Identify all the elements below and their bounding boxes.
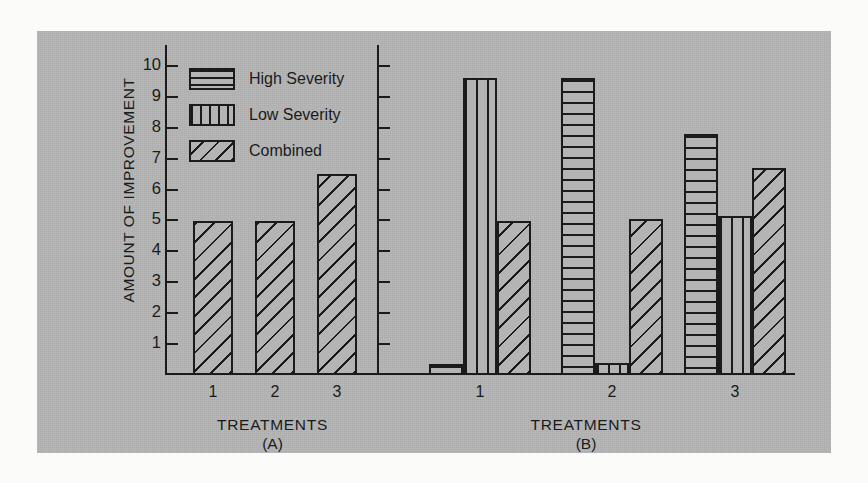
y-tick-9 [379, 96, 390, 98]
y-tick-label-5: 5 [152, 210, 161, 227]
y-tick-6: 6 [167, 189, 178, 191]
y-tick-label-2: 2 [152, 303, 161, 320]
bar-combined-treatment-2 [255, 221, 295, 376]
y-tick-4: 4 [167, 250, 178, 252]
bar-combined-treatment-3 [752, 168, 786, 375]
y-tick-label-8: 8 [152, 118, 161, 135]
y-tick-5 [379, 219, 390, 221]
bar-combined-treatment-3 [317, 174, 357, 375]
y-tick-label-10: 10 [143, 56, 161, 73]
bar-low-severity-treatment-1 [463, 78, 497, 375]
y-tick-1 [379, 343, 390, 345]
panel-b: 123 TREATMENTS (B) [377, 31, 827, 453]
y-axis-b [377, 45, 379, 375]
y-tick-2: 2 [167, 312, 178, 314]
plot-area-a: 12345678910 123 [165, 45, 380, 375]
y-tick-label-7: 7 [152, 149, 161, 166]
panel-letter-a: (A) [165, 435, 380, 453]
bar-combined-treatment-1 [193, 221, 233, 376]
bar-high-severity-treatment-1 [429, 364, 463, 375]
bar-low-severity-treatment-3 [718, 216, 752, 375]
y-tick-7 [379, 158, 390, 160]
y-tick-2 [379, 312, 390, 314]
y-tick-5: 5 [167, 219, 178, 221]
y-tick-10 [379, 65, 390, 67]
y-tick-1: 1 [167, 343, 178, 345]
y-tick-8: 8 [167, 127, 178, 129]
bar-combined-treatment-2 [629, 219, 663, 375]
y-tick-3: 3 [167, 281, 178, 283]
y-tick-9: 9 [167, 96, 178, 98]
panel-letter-b: (B) [377, 435, 795, 453]
y-tick-4 [379, 250, 390, 252]
y-tick-label-4: 4 [152, 241, 161, 258]
scanned-page: AMOUNT OF IMPROVEMENT High Severity Low … [0, 0, 868, 483]
bar-high-severity-treatment-3 [684, 134, 718, 375]
bar-low-severity-treatment-2 [595, 363, 629, 375]
x-tick-label-2: 2 [592, 383, 632, 401]
x-axis-title-b: TREATMENTS [377, 416, 795, 434]
x-tick-label-1: 1 [460, 383, 500, 401]
y-tick-label-3: 3 [152, 272, 161, 289]
y-tick-7: 7 [167, 158, 178, 160]
y-tick-label-6: 6 [152, 180, 161, 197]
x-axis-title-a: TREATMENTS [165, 416, 380, 434]
y-axis-a [165, 45, 167, 375]
y-tick-3 [379, 281, 390, 283]
y-tick-label-1: 1 [152, 334, 161, 351]
figure-panel: AMOUNT OF IMPROVEMENT High Severity Low … [37, 31, 831, 453]
y-tick-label-9: 9 [152, 87, 161, 104]
panel-a: 12345678910 123 TREATMENTS (A) [97, 31, 407, 453]
y-tick-6 [379, 189, 390, 191]
bar-combined-treatment-1 [497, 221, 531, 376]
plot-area-b: 123 [377, 45, 795, 375]
x-tick-label-3: 3 [317, 383, 357, 401]
x-tick-label-3: 3 [715, 383, 755, 401]
x-tick-label-1: 1 [193, 383, 233, 401]
y-tick-8 [379, 127, 390, 129]
x-tick-label-2: 2 [255, 383, 295, 401]
y-tick-10: 10 [167, 65, 178, 67]
bar-high-severity-treatment-2 [561, 78, 595, 375]
